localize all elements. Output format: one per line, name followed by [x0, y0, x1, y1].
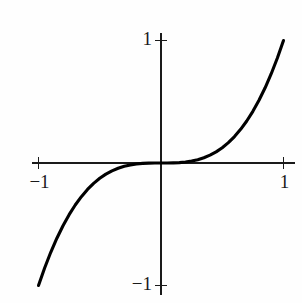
x-axis-label-minus-one: −1 [21, 172, 58, 191]
x-axis-label-plus-one: 1 [276, 172, 293, 191]
y-axis-label-minus-one: −1 [115, 274, 152, 293]
plot-figure: 1 −1 −1 1 [0, 0, 302, 303]
y-axis-label-plus-one: 1 [130, 29, 152, 48]
